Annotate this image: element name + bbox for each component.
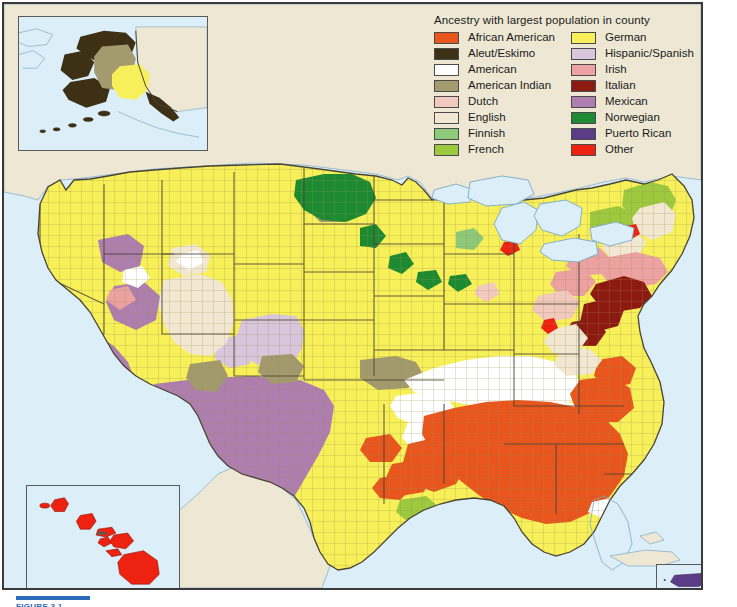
legend-label-italian: Italian bbox=[605, 80, 636, 92]
hawaii-map bbox=[27, 486, 179, 590]
swatch-irish bbox=[571, 64, 596, 76]
legend-item-aleut-eskimo[interactable]: Aleut/Eskimo bbox=[434, 46, 555, 62]
legend-item-mexican[interactable]: Mexican bbox=[571, 94, 694, 110]
legend-item-dutch[interactable]: Dutch bbox=[434, 94, 555, 110]
alaska-map bbox=[19, 17, 207, 150]
map-legend: Ancestry with largest population in coun… bbox=[430, 14, 702, 170]
figure-caption: FIGURE 3.1 bbox=[16, 602, 63, 607]
swatch-norwegian bbox=[571, 112, 596, 124]
legend-columns: African American Aleut/Eskimo American A… bbox=[434, 30, 702, 158]
legend-item-african-american[interactable]: African American bbox=[434, 30, 555, 46]
legend-label-irish: Irish bbox=[605, 64, 627, 76]
swatch-other bbox=[571, 144, 596, 156]
legend-column-left: African American Aleut/Eskimo American A… bbox=[434, 30, 555, 158]
island-niihau bbox=[40, 503, 50, 508]
legend-label-mexican: Mexican bbox=[605, 96, 648, 108]
legend-label-american: American bbox=[468, 64, 517, 76]
legend-item-american-indian[interactable]: American Indian bbox=[434, 78, 555, 94]
legend-label-african-american: African American bbox=[468, 32, 555, 44]
ancestry-map-figure: Ancestry with largest population in coun… bbox=[0, 0, 737, 607]
swatch-german bbox=[571, 32, 596, 44]
puerto-rico-map bbox=[657, 565, 703, 590]
legend-label-german: German bbox=[605, 32, 647, 44]
legend-item-finnish[interactable]: Finnish bbox=[434, 126, 555, 142]
legend-label-finnish: Finnish bbox=[468, 128, 505, 140]
swatch-italian bbox=[571, 80, 596, 92]
legend-item-american[interactable]: American bbox=[434, 62, 555, 78]
swatch-finnish bbox=[434, 128, 459, 140]
legend-label-other: Other bbox=[605, 144, 634, 156]
legend-item-other[interactable]: Other bbox=[571, 142, 694, 158]
legend-title: Ancestry with largest population in coun… bbox=[434, 14, 702, 26]
legend-item-irish[interactable]: Irish bbox=[571, 62, 694, 78]
swatch-english bbox=[434, 112, 459, 124]
swatch-puerto-rican bbox=[571, 128, 596, 140]
swatch-african-american bbox=[434, 32, 459, 44]
hawaii-inset bbox=[26, 485, 180, 590]
legend-label-aleut-eskimo: Aleut/Eskimo bbox=[468, 48, 535, 60]
main-map: Ancestry with largest population in coun… bbox=[2, 2, 703, 590]
legend-label-norwegian: Norwegian bbox=[605, 112, 660, 124]
legend-item-german[interactable]: German bbox=[571, 30, 694, 46]
legend-label-french: French bbox=[468, 144, 504, 156]
legend-item-norwegian[interactable]: Norwegian bbox=[571, 110, 694, 126]
legend-item-italian[interactable]: Italian bbox=[571, 78, 694, 94]
alaska-inset bbox=[18, 16, 208, 151]
swatch-aleut-eskimo bbox=[434, 48, 459, 60]
legend-item-french[interactable]: French bbox=[434, 142, 555, 158]
legend-item-english[interactable]: English bbox=[434, 110, 555, 126]
hawaii-minor-marks bbox=[97, 532, 107, 535]
swatch-french bbox=[434, 144, 459, 156]
legend-column-right: German Hispanic/Spanish Irish Italian bbox=[571, 30, 694, 158]
legend-item-puerto-rican[interactable]: Puerto Rican bbox=[571, 126, 694, 142]
caption-rule bbox=[16, 596, 90, 600]
swatch-american bbox=[434, 64, 459, 76]
swatch-american-indian bbox=[434, 80, 459, 92]
puerto-rico-inset bbox=[656, 564, 703, 590]
swatch-mexican bbox=[571, 96, 596, 108]
swatch-dutch bbox=[434, 96, 459, 108]
legend-label-american-indian: American Indian bbox=[468, 80, 551, 92]
legend-label-dutch: Dutch bbox=[468, 96, 498, 108]
legend-label-english: English bbox=[468, 112, 506, 124]
legend-label-hispanic-spanish: Hispanic/Spanish bbox=[605, 48, 694, 60]
puerto-rico-island bbox=[671, 573, 703, 586]
legend-label-puerto-rican: Puerto Rican bbox=[605, 128, 671, 140]
legend-item-hispanic-spanish[interactable]: Hispanic/Spanish bbox=[571, 46, 694, 62]
swatch-hispanic-spanish bbox=[571, 48, 596, 60]
